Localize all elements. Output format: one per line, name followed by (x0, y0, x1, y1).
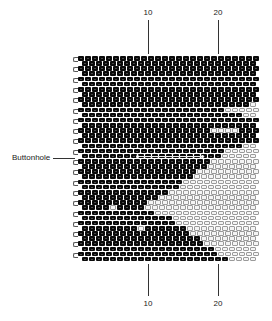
bead (229, 144, 235, 149)
bead (222, 123, 228, 128)
bead (169, 149, 175, 154)
bead (232, 97, 238, 102)
bead (106, 231, 112, 236)
bead (148, 149, 154, 154)
bead (131, 123, 137, 128)
bead (183, 138, 189, 143)
bead (173, 195, 179, 200)
bead (89, 185, 95, 190)
bead (148, 159, 154, 164)
bead (225, 252, 231, 257)
bead (92, 241, 98, 246)
bead (113, 56, 119, 61)
bead (82, 123, 88, 128)
bead (110, 216, 116, 221)
bead (131, 236, 137, 241)
bead (232, 159, 238, 164)
bead (215, 144, 221, 149)
bead (138, 71, 144, 76)
bead (173, 82, 179, 87)
bead (159, 82, 165, 87)
bead (85, 159, 91, 164)
bead (215, 123, 221, 128)
bead (155, 118, 161, 123)
bead (148, 97, 154, 102)
bead (89, 61, 95, 66)
bead (106, 138, 112, 143)
bead (211, 221, 217, 226)
bead (117, 185, 123, 190)
bead (166, 185, 172, 190)
bead (211, 200, 217, 205)
bead (169, 66, 175, 71)
bead (204, 241, 210, 246)
bead (180, 174, 186, 179)
bead (218, 190, 224, 195)
bead (190, 128, 196, 133)
bead (173, 144, 179, 149)
bead (246, 66, 252, 71)
top-tick-line-20 (218, 20, 219, 54)
bead (124, 174, 130, 179)
bead (162, 252, 168, 257)
bead (103, 174, 109, 179)
bead (246, 87, 252, 92)
bead (113, 87, 119, 92)
buttonhole-label: Buttonhole (12, 153, 50, 162)
bead (127, 241, 133, 246)
bead (85, 56, 91, 61)
bead (96, 185, 102, 190)
bead (225, 66, 231, 71)
bead (82, 247, 88, 252)
bead (124, 185, 130, 190)
bead (218, 241, 224, 246)
bead (127, 200, 133, 205)
bead (176, 128, 182, 133)
bead (124, 257, 130, 262)
bead (85, 180, 91, 185)
bead (222, 195, 228, 200)
bead (166, 71, 172, 76)
bead (117, 154, 123, 159)
bead (120, 190, 126, 195)
bead (138, 236, 144, 241)
bead (222, 205, 228, 210)
bead (131, 195, 137, 200)
bead (243, 174, 249, 179)
bead (89, 82, 95, 87)
bead (96, 205, 102, 210)
bead (113, 77, 119, 82)
bead (127, 211, 133, 216)
bead (201, 61, 207, 66)
bead (190, 211, 196, 216)
bead (243, 144, 249, 149)
bead (215, 226, 221, 231)
bead (162, 190, 168, 195)
bead (187, 226, 193, 231)
bead (246, 169, 252, 174)
bead (232, 108, 238, 113)
bead (162, 97, 168, 102)
bead (253, 252, 259, 257)
bead (246, 211, 252, 216)
bead (197, 221, 203, 226)
bead (145, 236, 151, 241)
bead (127, 56, 133, 61)
bead (99, 169, 105, 174)
bead (194, 82, 200, 87)
bead (215, 102, 221, 107)
bead (218, 66, 224, 71)
bead (208, 133, 214, 138)
bead (103, 226, 109, 231)
bead (103, 195, 109, 200)
bead (204, 159, 210, 164)
bead (117, 133, 123, 138)
bead (78, 200, 84, 205)
bead (236, 113, 242, 118)
bead (208, 144, 214, 149)
bead (232, 190, 238, 195)
bead (208, 174, 214, 179)
bead (92, 169, 98, 174)
bead (201, 144, 207, 149)
bead (106, 241, 112, 246)
